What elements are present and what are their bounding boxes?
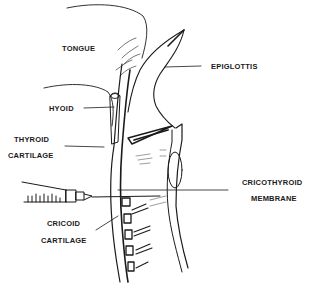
tracheal-rings [122,198,134,271]
thyroid-leader [65,146,104,147]
posterior-wall [176,124,188,268]
needle [92,196,160,197]
label-hyoid: HYOID [49,105,74,113]
airway-hatching [136,150,166,206]
cricothyroid-oval [168,152,182,188]
label-thyroid-line2: CARTILAGE [8,152,54,160]
tongue-hatching [116,38,140,76]
epiglottis-outline [128,30,184,112]
label-epiglottis: EPIGLOTTIS [211,63,258,71]
leader-lines [65,66,228,230]
label-thyroid-line1: THYROID [14,136,49,144]
label-tongue: TONGUE [62,45,95,53]
hyoid-leader [84,107,114,108]
label-cricoid-line1: CRICOID [47,220,80,228]
cricoid-leader [96,216,118,230]
airway-diagram: TONGUE EPIGLOTTIS HYOID THYROID CARTILAG… [0,0,311,288]
label-cricothyroid-line2: MEMBRANE [251,195,297,203]
label-cricoid-line2: CARTILAGE [41,237,87,245]
syringe [22,182,92,202]
epiglottis-leader [165,66,201,67]
label-cricothyroid-line1: CRICOTHYROID [242,179,302,187]
